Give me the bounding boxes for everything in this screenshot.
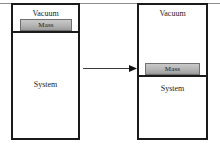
vacuum-label-right: Vacuum [139,10,206,18]
mass-block-right: Mass [145,63,200,75]
partition-plate-right [139,75,206,77]
process-arrow [83,64,137,73]
vessel-final-state: Vacuum Mass System [137,3,208,140]
mass-block-left: Mass [20,19,72,31]
mass-label-left: Mass [38,22,54,29]
system-label-right: System [139,85,206,93]
figure-canvas: Vacuum Mass System Vacuum Mass System [0,0,220,153]
mass-label-right: Mass [165,66,181,73]
vessel-initial-state: Vacuum Mass System [11,3,80,140]
vacuum-label-left: Vacuum [13,10,78,18]
partition-plate-left [13,31,78,33]
system-label-left: System [13,81,78,89]
